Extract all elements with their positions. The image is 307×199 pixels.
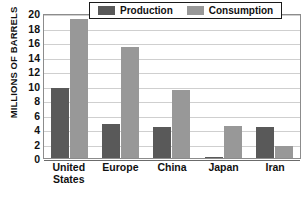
bar-group <box>51 15 88 158</box>
legend-label: Production <box>120 5 173 16</box>
y-axis-tick-label: 20 <box>28 9 40 20</box>
y-axis-tick-labels: 20181614121086420 <box>16 14 40 159</box>
bar-chart: MILLIONS OF BARRELS 20181614121086420 Pr… <box>0 0 307 199</box>
x-axis-tick-labels: UnitedStatesEuropeChinaJapanIran <box>43 161 301 185</box>
bar-consumption <box>275 146 293 158</box>
y-axis-tick-label: 14 <box>28 52 40 63</box>
bar-group <box>205 15 242 158</box>
bar-production <box>51 88 69 158</box>
chart-legend: ProductionConsumption <box>89 2 282 19</box>
x-axis-tick-label: Iran <box>249 161 301 185</box>
legend-label: Consumption <box>209 5 273 16</box>
y-axis-tick-label: 2 <box>34 139 40 150</box>
bar-production <box>102 124 120 158</box>
y-axis-tick-label: 8 <box>34 96 40 107</box>
legend-item: Consumption <box>187 5 273 16</box>
y-axis-tick-label: 10 <box>28 81 40 92</box>
plot-area <box>43 14 301 159</box>
bar-consumption <box>172 90 190 158</box>
y-axis-tick-label: 16 <box>28 38 40 49</box>
y-axis-tick-label: 18 <box>28 23 40 34</box>
bar-group <box>102 15 139 158</box>
bar-consumption <box>70 19 88 158</box>
bar-group <box>256 15 293 158</box>
x-axis-tick-label: Japan <box>198 161 250 185</box>
legend-swatch-icon <box>98 6 115 15</box>
bar-group <box>153 15 190 158</box>
y-axis-tick-label: 12 <box>28 67 40 78</box>
bar-production <box>205 157 223 158</box>
x-axis-tick-label: UnitedStates <box>43 161 95 185</box>
x-axis-tick-label: China <box>146 161 198 185</box>
bar-groups <box>44 15 300 158</box>
x-axis-tick-label: Europe <box>95 161 147 185</box>
bar-production <box>153 127 171 158</box>
bar-production <box>256 127 274 158</box>
y-axis-tick-label: 6 <box>34 110 40 121</box>
bar-consumption <box>224 126 242 158</box>
y-axis-tick-label: 0 <box>34 154 40 165</box>
bar-consumption <box>121 47 139 158</box>
legend-swatch-icon <box>187 6 204 15</box>
legend-item: Production <box>98 5 173 16</box>
y-axis-tick-label: 4 <box>34 125 40 136</box>
